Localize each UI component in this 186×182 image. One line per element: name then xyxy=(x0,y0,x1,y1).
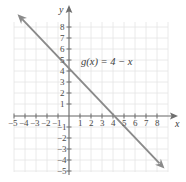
y-tick-label--5: −5 xyxy=(57,167,67,176)
y-tick-label--3: −3 xyxy=(57,145,67,154)
y-tick-label-7: 7 xyxy=(60,34,65,43)
x-tick-label-4: 4 xyxy=(111,119,116,128)
x-tick-label--4: −4 xyxy=(19,119,29,128)
y-tick-label-8: 8 xyxy=(60,23,65,32)
x-tick-label--5: −5 xyxy=(8,119,18,128)
x-tick-label-7: 7 xyxy=(144,119,149,128)
grid-lines-vertical xyxy=(14,22,168,172)
x-axis-label: x xyxy=(175,119,179,129)
y-axis-label: y xyxy=(59,5,63,15)
y-tick-label-4: 4 xyxy=(60,67,65,76)
x-tick-label-5: 5 xyxy=(122,119,127,128)
x-tick-label-2: 2 xyxy=(89,119,94,128)
y-tick-label-5: 5 xyxy=(60,56,65,65)
y-tick-label--1: −1 xyxy=(57,123,67,132)
x-tick-label-1: 1 xyxy=(78,119,83,128)
y-tick-label-3: 3 xyxy=(60,78,65,87)
coordinate-plane xyxy=(0,0,186,182)
function-equation-label: g(x) = 4 − x xyxy=(81,57,133,68)
x-tick-label-3: 3 xyxy=(100,119,105,128)
x-tick-label-8: 8 xyxy=(155,119,160,128)
x-tick-label--2: −2 xyxy=(41,119,51,128)
x-tick-label-6: 6 xyxy=(133,119,138,128)
y-tick-label-6: 6 xyxy=(60,45,65,54)
y-tick-label-1: 1 xyxy=(60,100,65,109)
y-tick-label--4: −4 xyxy=(57,156,67,165)
y-tick-label--2: −2 xyxy=(57,134,67,143)
x-tick-label--3: −3 xyxy=(30,119,40,128)
graph-figure: −5 −4 −3 −2 −1 1 2 3 4 5 6 7 8 8 7 6 5 4… xyxy=(0,0,186,182)
y-tick-label-2: 2 xyxy=(60,89,65,98)
